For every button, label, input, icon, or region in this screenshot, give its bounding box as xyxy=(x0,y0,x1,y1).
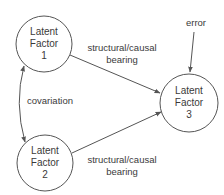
node-label-line: 3 xyxy=(186,109,192,120)
edge-label-lf2-lf3: bearing xyxy=(106,166,138,177)
edge-covariation xyxy=(19,66,25,142)
edge-label-lf2-lf3: structural/causal xyxy=(87,154,156,165)
node-label-line: 1 xyxy=(41,50,47,61)
node-latent-factor-2: Latent Factor 2 xyxy=(17,135,73,191)
node-latent-factor-3: Latent Factor 3 xyxy=(160,74,218,132)
path-diagram: Latent Factor 1 Latent Factor 2 Latent F… xyxy=(0,0,224,195)
error-label: error xyxy=(186,17,206,28)
node-label-line: Factor xyxy=(31,157,60,168)
node-label-line: Factor xyxy=(175,97,204,108)
edge-label-covariation: covariation xyxy=(27,95,73,106)
edge-lf2-to-lf3 xyxy=(72,112,161,153)
node-label-line: Latent xyxy=(175,85,203,96)
node-latent-factor-1: Latent Factor 1 xyxy=(16,16,72,72)
node-label-line: Latent xyxy=(30,26,58,37)
edge-label-lf1-lf3: structural/causal xyxy=(87,42,156,53)
node-label-line: 2 xyxy=(42,169,48,180)
node-label-line: Latent xyxy=(31,145,59,156)
node-label-line: Factor xyxy=(30,38,59,49)
edge-label-lf1-lf3: bearing xyxy=(106,54,138,65)
edge-error-to-lf3 xyxy=(190,32,194,72)
